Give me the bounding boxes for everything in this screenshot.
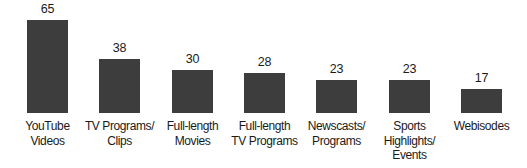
- category-label: SportsHighlights/Events: [370, 119, 450, 163]
- value-label: 17: [446, 71, 518, 85]
- bar: [27, 20, 68, 113]
- bar: [99, 59, 140, 113]
- category-label-line: TV Programs: [225, 134, 305, 149]
- category-label-line: Videos: [8, 134, 88, 149]
- value-label: 28: [229, 55, 301, 69]
- category-label-line: YouTube: [8, 119, 88, 134]
- category-label: Webisodes: [442, 119, 522, 134]
- bar-chart: 65YouTubeVideos38TV Programs/Clips30Full…: [0, 0, 527, 168]
- category-label: Full-lengthMovies: [153, 119, 233, 148]
- category-label-line: Full-length: [153, 119, 233, 134]
- category-label-line: TV Programs/: [80, 119, 160, 134]
- category-label-line: Events: [370, 148, 450, 163]
- value-label: 23: [374, 62, 446, 76]
- bar: [244, 73, 285, 113]
- bar: [461, 89, 502, 113]
- value-label: 65: [12, 2, 84, 16]
- category-label-line: Newscasts/: [297, 119, 377, 134]
- bar: [316, 80, 357, 113]
- bar: [172, 70, 213, 113]
- category-label: Newscasts/Programs: [297, 119, 377, 148]
- bar: [389, 80, 430, 113]
- category-label-line: Programs: [297, 134, 377, 149]
- category-label-line: Movies: [153, 134, 233, 149]
- category-label-line: Highlights/: [370, 134, 450, 149]
- category-label: YouTubeVideos: [8, 119, 88, 148]
- category-label-line: Sports: [370, 119, 450, 134]
- category-label-line: Webisodes: [442, 119, 522, 134]
- value-label: 30: [157, 52, 229, 66]
- value-label: 38: [84, 41, 156, 55]
- category-label: TV Programs/Clips: [80, 119, 160, 148]
- category-label: Full-lengthTV Programs: [225, 119, 305, 148]
- value-label: 23: [301, 62, 373, 76]
- category-label-line: Clips: [80, 134, 160, 149]
- category-label-line: Full-length: [225, 119, 305, 134]
